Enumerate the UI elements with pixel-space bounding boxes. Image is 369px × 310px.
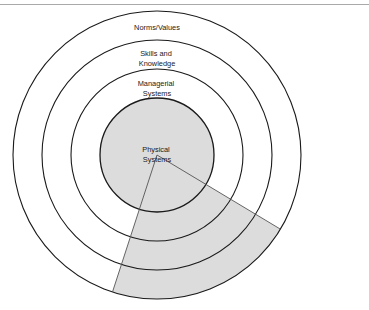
label-skills-and-knowledge-line-2: Knowledge <box>139 59 176 68</box>
label-physical-systems: Physical Systems <box>142 145 172 164</box>
label-skills-and-knowledge-line-1: Skills and <box>140 49 172 58</box>
label-norms-values: Norms/Values <box>134 23 180 32</box>
label-physical-systems-line-2: Systems <box>143 155 172 164</box>
label-norms-values-line-1: Norms/Values <box>134 23 180 32</box>
label-physical-systems-line-1: Physical <box>142 145 170 154</box>
label-skills-and-knowledge: Skills and Knowledge <box>139 49 176 68</box>
figure-root: Norms/Values Skills and Knowledge Manage… <box>0 0 369 310</box>
label-managerial-systems: Managerial Systems <box>138 79 177 98</box>
label-managerial-systems-line-1: Managerial <box>138 79 175 88</box>
label-managerial-systems-line-2: Systems <box>143 89 172 98</box>
concentric-circles-diagram: Norms/Values Skills and Knowledge Manage… <box>0 0 369 310</box>
